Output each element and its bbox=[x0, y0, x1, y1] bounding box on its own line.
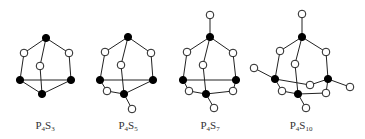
label-p4s3: P4S3 bbox=[35, 119, 54, 133]
sulfur-atom-icon bbox=[322, 48, 330, 56]
bond-line bbox=[42, 80, 71, 94]
sulfur-atom-icon bbox=[183, 48, 191, 56]
phosphorus-atom-icon bbox=[298, 33, 305, 40]
phosphorus-atom-icon bbox=[38, 90, 45, 97]
sulfur-atom-icon bbox=[298, 10, 306, 18]
molecule-p4s3 bbox=[16, 34, 74, 97]
sulfur-atom-icon bbox=[206, 11, 214, 19]
label-p4s10: P4S10 bbox=[290, 119, 313, 133]
phosphorus-atom-icon bbox=[96, 76, 103, 83]
sulfur-atom-icon bbox=[199, 61, 207, 69]
sulfur-atom-icon bbox=[306, 81, 314, 89]
sulfur-atom-icon bbox=[36, 62, 44, 70]
sulfur-atom-icon bbox=[250, 64, 258, 72]
bond-line bbox=[275, 79, 310, 85]
phosphorus-atom-icon bbox=[124, 33, 131, 40]
phosphorus-atom-icon bbox=[67, 76, 74, 83]
sulfur-atom-icon bbox=[101, 48, 109, 56]
sulfur-atom-icon bbox=[128, 105, 136, 113]
sulfur-atom-icon bbox=[302, 104, 310, 112]
phosphorus-atom-icon bbox=[179, 76, 186, 83]
sulfur-atom-icon bbox=[278, 87, 286, 95]
sulfur-atom-icon bbox=[210, 104, 218, 112]
sulfur-atom-icon bbox=[103, 87, 111, 95]
phosphorus-atom-icon bbox=[42, 34, 49, 41]
molecule-p4s7 bbox=[179, 11, 239, 112]
phosphorus-atom-icon bbox=[149, 76, 156, 83]
sulfur-atom-icon bbox=[229, 87, 237, 95]
molecule-p4s10 bbox=[250, 10, 354, 112]
phosphorus-atom-icon bbox=[294, 90, 301, 97]
sulfur-atom-icon bbox=[65, 49, 73, 57]
phosphorus-atom-icon bbox=[232, 76, 239, 83]
molecule-p4s5 bbox=[96, 33, 156, 112]
sulfur-atom-icon bbox=[291, 60, 299, 68]
phosphorus-atom-icon bbox=[271, 75, 278, 82]
bond-line bbox=[124, 80, 153, 94]
sulfur-atom-icon bbox=[20, 49, 28, 57]
sulfur-atom-icon bbox=[117, 61, 125, 69]
sulfur-atom-icon bbox=[276, 47, 284, 55]
bond-line bbox=[295, 64, 298, 94]
phosphorus-atom-icon bbox=[120, 90, 127, 97]
phosphorus-atom-icon bbox=[16, 76, 23, 83]
sulfur-atom-icon bbox=[147, 49, 155, 57]
sulfur-atom-icon bbox=[346, 83, 354, 91]
phosphorus-atom-icon bbox=[324, 75, 331, 82]
label-p4s5: P4S5 bbox=[118, 119, 137, 133]
phosphorus-atom-icon bbox=[202, 90, 209, 97]
label-p4s7: P4S7 bbox=[200, 119, 219, 133]
sulfur-atom-icon bbox=[229, 49, 237, 57]
sulfur-atom-icon bbox=[185, 87, 193, 95]
sulfur-atom-icon bbox=[322, 89, 330, 97]
phosphorus-atom-icon bbox=[206, 33, 213, 40]
